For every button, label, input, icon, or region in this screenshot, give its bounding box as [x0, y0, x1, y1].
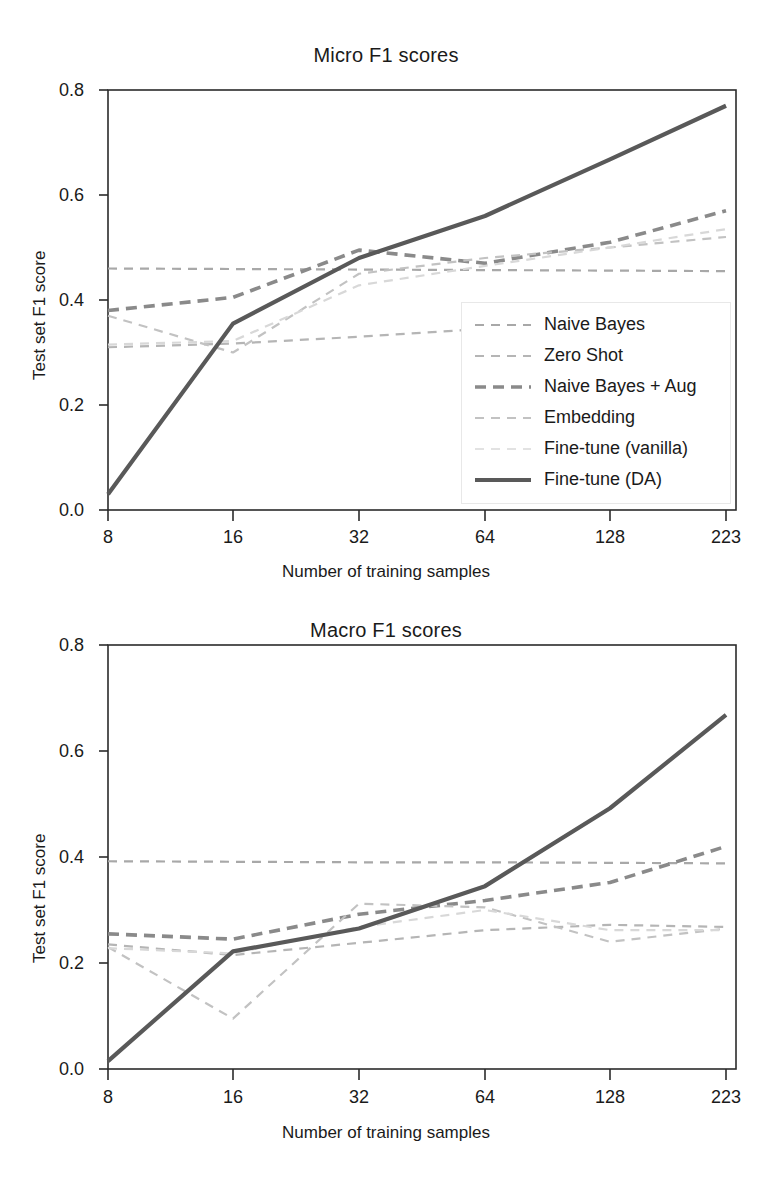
- legend-item-fine-tune-da[interactable]: Fine-tune (DA): [474, 464, 730, 495]
- legend-line-zero-shot: [474, 349, 532, 363]
- chart-panel-micro-f1: Micro F1 scores Test set F1 score 0.8 0.…: [0, 0, 772, 600]
- legend-item-naive-bayes-aug[interactable]: Naive Bayes + Aug: [474, 371, 730, 402]
- plot-area-macro: [0, 575, 772, 1195]
- legend-line-naive-bayes-aug: [474, 380, 532, 394]
- series-line-naive-bayes: [108, 269, 726, 272]
- series-line-fine-tune-da: [108, 715, 726, 1061]
- series-line-naive-bayes-aug: [108, 846, 726, 939]
- chart-panel-macro-f1: Macro F1 scores Test set F1 score 0.8 0.…: [0, 575, 772, 1195]
- plot-area-micro: [0, 0, 772, 600]
- legend-label-naive-bayes: Naive Bayes: [544, 314, 645, 335]
- legend-item-zero-shot[interactable]: Zero Shot: [474, 340, 730, 371]
- series-line-naive-bayes-aug: [108, 211, 726, 311]
- x-ticks-macro: [108, 1069, 726, 1080]
- legend-label-naive-bayes-aug: Naive Bayes + Aug: [544, 376, 697, 397]
- legend-label-fine-tune-vanilla: Fine-tune (vanilla): [544, 438, 688, 459]
- legend-label-fine-tune-da: Fine-tune (DA): [544, 469, 662, 490]
- legend-item-fine-tune-vanilla[interactable]: Fine-tune (vanilla): [474, 433, 730, 464]
- legend-item-naive-bayes[interactable]: Naive Bayes: [474, 309, 730, 340]
- legend: Naive Bayes Zero Shot Naive Bayes + Aug: [461, 302, 731, 504]
- series-line-fine-tune-vanilla: [108, 910, 726, 953]
- legend-line-fine-tune-da: [474, 473, 532, 487]
- series-group-macro: [108, 715, 726, 1061]
- legend-line-embedding: [474, 411, 532, 425]
- legend-item-embedding[interactable]: Embedding: [474, 402, 730, 433]
- x-ticks-micro: [108, 510, 726, 521]
- series-line-naive-bayes: [108, 861, 726, 863]
- y-ticks-macro: [99, 645, 108, 1069]
- legend-line-fine-tune-vanilla: [474, 442, 532, 456]
- legend-label-zero-shot: Zero Shot: [544, 345, 623, 366]
- figure-root: Micro F1 scores Test set F1 score 0.8 0.…: [0, 0, 772, 1195]
- legend-line-naive-bayes: [474, 318, 532, 332]
- y-ticks-micro: [99, 90, 108, 510]
- series-line-embedding: [108, 904, 726, 1019]
- axes-frame-macro: [108, 645, 736, 1069]
- legend-label-embedding: Embedding: [544, 407, 635, 428]
